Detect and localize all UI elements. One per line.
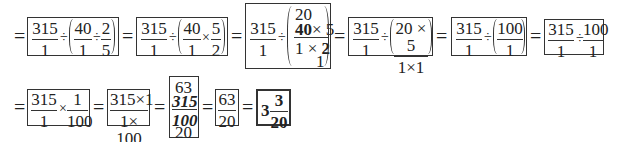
fraction-315-over-1: 3151 [141, 20, 167, 59]
divide-operator: ÷ [278, 31, 286, 45]
divide-operator: ÷ [381, 31, 389, 45]
whole-number: 3 [261, 102, 270, 119]
denominator: 1 [583, 43, 603, 60]
numerator: 315 [141, 20, 167, 37]
multiply-operator: × [59, 102, 67, 116]
step-7-box: 3151 × 1100 [27, 89, 90, 126]
numerator: 20 × 5 [394, 20, 428, 54]
right-paren [518, 19, 525, 54]
cancel-result-bottom: 20 [175, 124, 192, 141]
denominator: 100 [67, 113, 88, 130]
denominator: 1×1 [394, 59, 428, 76]
denominator: 1 [32, 42, 58, 59]
fraction-315-over-1: 3151 [32, 20, 58, 59]
equals-sign: = [242, 97, 253, 117]
struck-numerator: 315 [172, 93, 198, 110]
fraction-315-over-1: 3151 [456, 20, 482, 59]
fraction-20x5-over-1x1: 20 × 51×1 [394, 20, 428, 76]
step-3-box: 3151 ÷ 20 40× 5 1 × 2 1 [245, 3, 331, 69]
fraction-40-over-1: 401 [74, 20, 92, 59]
multiply-operator: × [202, 31, 210, 45]
fraction-315-over-1: 3151 [353, 20, 379, 59]
numerator: 3 [270, 92, 288, 109]
step-10-box: 6320 [215, 89, 239, 126]
fraction-315x1-over-1x100: 315×11× 100 [110, 91, 148, 142]
denominator: 20 [270, 114, 288, 131]
denominator: 1 [141, 42, 167, 59]
right-paren [425, 19, 432, 54]
numerator: 40 [74, 20, 92, 37]
equals-sign: = [93, 97, 104, 117]
divide-operator: ÷ [60, 31, 68, 45]
denominator: 1 [31, 113, 57, 130]
step-9-box: 63 315 100 20 [169, 76, 199, 138]
fraction-315-over-1: 3151 [548, 21, 574, 60]
step-5-box: 3151 ÷ 1001 [451, 17, 527, 56]
equals-sign: = [14, 97, 25, 117]
equals-sign: = [231, 26, 242, 46]
numerator: 315 [31, 91, 57, 108]
numerator: 315 [548, 21, 574, 38]
equals-sign: = [530, 26, 541, 46]
equals-sign: = [202, 97, 213, 117]
numerator: 315 [250, 20, 276, 37]
equals-sign: = [122, 26, 133, 46]
divide-operator: ÷ [93, 31, 101, 45]
denominator: 1 [250, 42, 276, 59]
fraction-3-over-20: 320 [270, 92, 288, 131]
step-6-box: 3151 ÷ 1001 [544, 19, 604, 55]
equals-sign: = [154, 97, 165, 117]
numerator: 40 [183, 20, 201, 37]
right-paren [218, 19, 225, 54]
divide-operator: ÷ [169, 31, 177, 45]
fraction-100-over-1: 1001 [583, 21, 603, 60]
fraction-bar [172, 109, 197, 110]
numerator: 1 [67, 91, 88, 108]
left-paren [287, 6, 295, 66]
numerator: 315 [32, 20, 58, 37]
fraction-315-over-1: 3151 [31, 91, 57, 130]
denominator: 1× 100 [110, 113, 148, 142]
numerator: 63 [218, 91, 236, 108]
denominator: 1 [353, 42, 379, 59]
step-1-box: 3151 ÷ 401 ÷ 25 [27, 17, 119, 56]
numerator: 315 [353, 20, 379, 37]
denominator: 1 [183, 42, 201, 59]
denominator: 20 [218, 113, 236, 130]
step-2-box: 3151 ÷ 401 × 52 [136, 17, 228, 56]
fraction-315-over-1: 3151 [250, 20, 276, 59]
denominator: 1 [74, 42, 92, 59]
numerator: 315×1 [110, 91, 148, 108]
equals-sign: = [436, 26, 447, 46]
fraction-1-over-100: 1100 [67, 91, 88, 130]
step-8-box: 315×11× 100 [107, 89, 150, 126]
final-answer-box: 3 320 [256, 89, 291, 126]
denominator: 1 [548, 43, 574, 60]
divide-operator: ÷ [484, 31, 492, 45]
right-paren [321, 6, 329, 66]
fraction-40-over-1: 401 [183, 20, 201, 59]
equals-sign: = [14, 26, 25, 46]
denominator: 1 [456, 42, 482, 59]
right-paren [108, 19, 115, 54]
numerator: 100 [583, 21, 603, 38]
step-4-box: 3151 ÷ 20 × 51×1 [348, 17, 433, 56]
equals-sign: = [334, 26, 345, 46]
numerator: 315 [456, 20, 482, 37]
fraction-63-over-20: 6320 [218, 91, 236, 130]
